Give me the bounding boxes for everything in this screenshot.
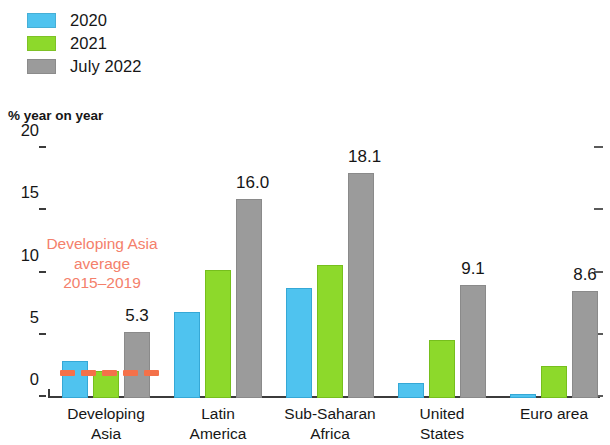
bar-july-2022: [124, 332, 150, 398]
legend-label-july-2022: July 2022: [70, 57, 142, 76]
x-axis-category-label: Euro area: [479, 404, 610, 424]
bar-group: 8.6: [510, 140, 598, 398]
bar-2020: [174, 312, 200, 398]
legend-swatch-2021: [27, 36, 56, 51]
bar-group: 16.0: [174, 140, 262, 398]
y-axis-tick-mark: [39, 333, 46, 335]
legend-swatch-2020: [27, 13, 56, 28]
annotation-line-2: average: [18, 254, 186, 274]
y-axis-line: [48, 389, 50, 398]
legend-label-2021: 2021: [70, 34, 107, 53]
bar-group: 9.1: [398, 140, 486, 398]
bar-2021: [429, 340, 455, 399]
bar-value-label: 8.6: [572, 265, 598, 285]
bar-value-label: 9.1: [460, 259, 486, 279]
developing-asia-average-line: [60, 370, 158, 376]
average-line-dash: [81, 370, 96, 376]
y-axis-tick-label: 20: [21, 121, 39, 140]
average-line-dash: [102, 370, 117, 376]
y-axis-tick-label: 15: [21, 183, 39, 202]
bar-2021: [541, 366, 567, 398]
annotation-line-3: 2015–2019: [18, 273, 186, 293]
chart-legend: 2020 2021 July 2022: [27, 9, 247, 78]
y-axis-tick-label: 5: [30, 307, 39, 326]
legend-item-2020: 2020: [27, 9, 247, 32]
bar-july-2022: [348, 173, 374, 398]
inflation-bar-chart: 2020 2021 July 2022 % year on year 05101…: [0, 0, 610, 445]
bar-value-label: 5.3: [124, 306, 150, 326]
category-label-line-2: States: [367, 424, 517, 444]
average-annotation-label: Developing Asia average 2015–2019: [18, 234, 186, 293]
legend-item-2021: 2021: [27, 32, 247, 55]
bar-2020: [398, 383, 424, 398]
average-line-dash: [60, 370, 75, 376]
bar-july-2022: [236, 199, 262, 398]
bar-2020: [62, 361, 88, 398]
legend-item-july-2022: July 2022: [27, 55, 247, 78]
bar-2021: [205, 270, 231, 398]
bar-2020: [510, 394, 536, 398]
bar-july-2022: [572, 291, 598, 398]
bar-2021: [317, 265, 343, 398]
bar-group: 18.1: [286, 140, 374, 398]
y-axis-tick-mark: [39, 146, 46, 148]
y-axis-tick-label: 0: [30, 370, 39, 389]
average-line-dash: [144, 370, 159, 376]
bar-july-2022: [460, 285, 486, 398]
bar-2020: [286, 288, 312, 398]
average-line-dash: [123, 370, 138, 376]
category-label-line-1: Euro area: [479, 404, 610, 424]
annotation-line-1: Developing Asia: [18, 234, 186, 254]
y-axis-tick-mark: [39, 208, 46, 210]
bar-value-label: 18.1: [348, 147, 374, 167]
legend-swatch-july-2022: [27, 59, 56, 74]
legend-label-2020: 2020: [70, 11, 107, 30]
bar-value-label: 16.0: [236, 173, 262, 193]
y-axis-tick-mark: [39, 395, 46, 397]
